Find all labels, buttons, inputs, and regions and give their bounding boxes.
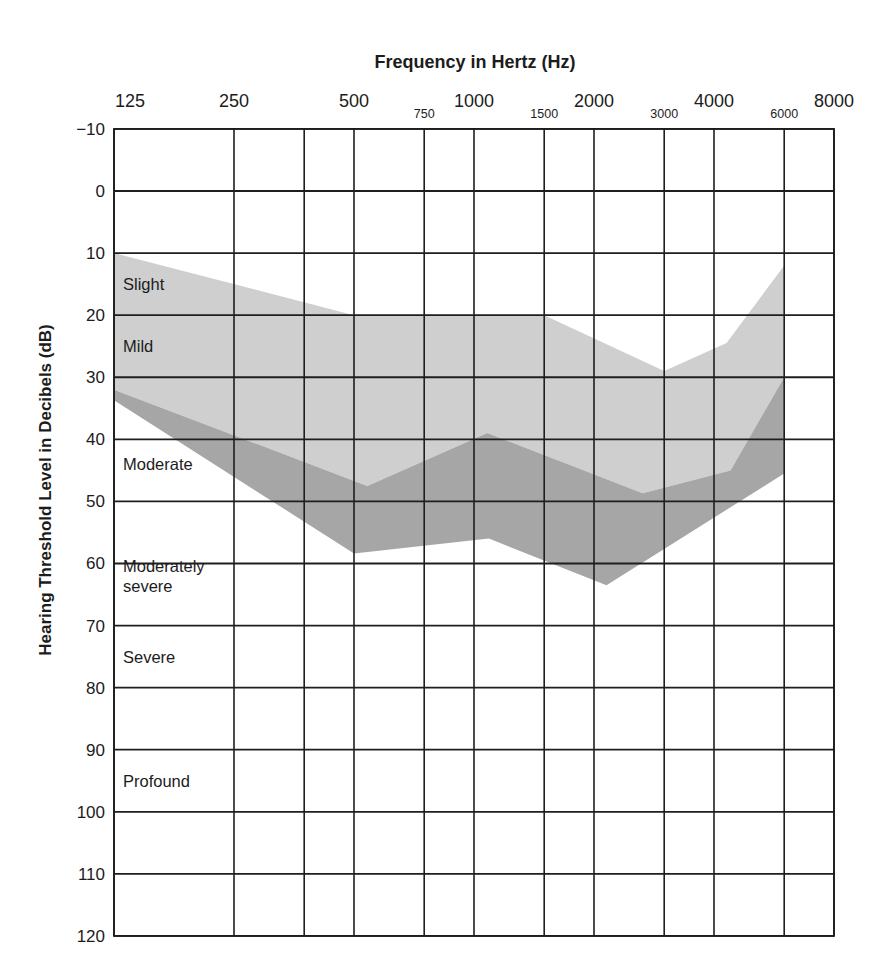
audiogram-svg: 1252505001000200040008000750150030006000… xyxy=(0,0,894,967)
y-tick-label: 70 xyxy=(86,617,105,636)
x-minor-tick-label: 6000 xyxy=(770,107,798,121)
y-tick-label: 80 xyxy=(86,679,105,698)
y-axis-tick-labels: −100102030405060708090100110120 xyxy=(76,120,105,946)
severity-label: Slight xyxy=(123,275,165,293)
y-tick-label: 40 xyxy=(86,430,105,449)
y-tick-label: 60 xyxy=(86,554,105,573)
severity-label: Moderately xyxy=(123,557,205,575)
severity-label: Moderate xyxy=(123,455,193,473)
audiogram-chart: 1252505001000200040008000750150030006000… xyxy=(0,0,894,967)
y-tick-label: 30 xyxy=(86,368,105,387)
x-axis-tick-labels: 1252505001000200040008000750150030006000 xyxy=(115,91,854,121)
y-tick-label: −10 xyxy=(76,120,105,139)
y-tick-label: 100 xyxy=(77,803,105,822)
grid-lines xyxy=(114,129,834,936)
y-tick-label: 90 xyxy=(86,741,105,760)
x-tick-label: 2000 xyxy=(574,91,614,111)
severity-label: Profound xyxy=(123,772,190,790)
x-tick-label: 125 xyxy=(115,91,145,111)
x-tick-label: 1000 xyxy=(454,91,494,111)
hearing-loss-bands xyxy=(114,253,784,585)
y-tick-label: 0 xyxy=(96,182,105,201)
x-tick-label: 250 xyxy=(219,91,249,111)
y-axis-title: Hearing Threshold Level in Decibels (dB) xyxy=(36,324,55,656)
x-axis-title: Frequency in Hertz (Hz) xyxy=(374,52,575,72)
x-minor-tick-label: 3000 xyxy=(650,107,678,121)
x-minor-tick-label: 750 xyxy=(414,107,435,121)
severity-label: severe xyxy=(123,577,173,595)
severity-label: Mild xyxy=(123,337,153,355)
x-minor-tick-label: 1500 xyxy=(530,107,558,121)
severity-label: Severe xyxy=(123,648,175,666)
y-tick-label: 50 xyxy=(86,492,105,511)
y-tick-label: 110 xyxy=(78,865,105,884)
y-tick-label: 20 xyxy=(86,306,105,325)
y-tick-label: 10 xyxy=(86,244,105,263)
x-tick-label: 8000 xyxy=(814,91,854,111)
y-tick-label: 120 xyxy=(77,927,105,946)
x-tick-label: 500 xyxy=(339,91,369,111)
x-tick-label: 4000 xyxy=(694,91,734,111)
